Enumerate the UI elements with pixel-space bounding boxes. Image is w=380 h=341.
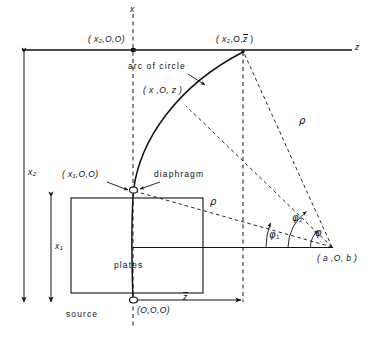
point-marker-x2-zbar <box>241 50 244 53</box>
leader-diaphragm <box>140 182 160 189</box>
rho-upper-label: ρ <box>299 116 306 126</box>
point-label-x2-0-zbar: ( x2,O,z ) <box>216 34 254 44</box>
point-label-x2-0-0-text: ( x₂,O,O) <box>88 34 125 44</box>
arc-of-circle-label: arc of circle <box>128 62 186 71</box>
source-label: source <box>66 310 98 319</box>
figure-root: x z ( x₂,O,O) ( x2,O,z ) arc of circle (… <box>0 0 380 341</box>
z-axis-label: z <box>355 43 360 52</box>
phi2-sub: 2 <box>299 217 303 223</box>
angle-label-phi1: φ1 <box>269 230 280 240</box>
diaphragm-marker <box>130 187 138 193</box>
point-label-x2-0-0: ( x₂,O,O) <box>88 35 125 44</box>
diaphragm-label: diaphragm <box>154 170 204 179</box>
point-label-x1-0-0: ( x₁,O,O) <box>62 170 99 179</box>
point-label-a-0-b: ( a ,O, b ) <box>317 254 357 263</box>
dimension-label-x2: x2 <box>28 168 36 177</box>
phi2-glyph: φ <box>292 212 299 223</box>
point-label-origin: (O,O,O) <box>137 306 170 315</box>
point-marker-x2-origin <box>131 48 136 52</box>
angle-label-phi2: φ2 <box>292 213 303 223</box>
plates-rectangle <box>71 198 203 293</box>
dimension-label-zbar: z <box>183 292 188 302</box>
phi1-sub: 1 <box>276 234 280 240</box>
angle-label-phi: φ <box>315 228 322 238</box>
plates-label: plates <box>114 261 143 270</box>
label-part-open: ( x <box>216 34 227 44</box>
leader-x1-point <box>107 182 128 190</box>
point-label-x-0-z: ( x ,O, z ) <box>143 86 182 95</box>
phi1-glyph: φ <box>269 229 276 240</box>
dimension-label-x1: x1 <box>55 242 63 251</box>
source-marker <box>130 297 138 303</box>
x-axis-label: x <box>130 5 135 14</box>
rho-mid-line <box>186 106 332 247</box>
rho-upper-line <box>244 53 332 247</box>
dim-x1-sub: 1 <box>60 245 64 251</box>
dim-x2-sub: 2 <box>33 171 37 177</box>
label-part-mid: ,O, <box>230 34 243 44</box>
rho-lower-label: ρ <box>210 197 217 207</box>
dim-zbar-glyph: z <box>183 292 188 301</box>
label-part-close: ) <box>248 34 254 44</box>
